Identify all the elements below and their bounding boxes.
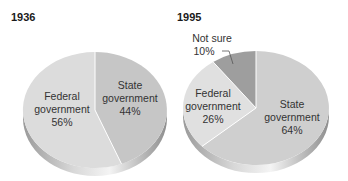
label-state-1936-l1: State — [118, 79, 143, 91]
label-state-1936-l2: government — [102, 92, 158, 104]
label-federal-1936-l1: Federal — [44, 90, 80, 102]
label-state-1936-pct: 44% — [119, 105, 140, 117]
label-state-1995-l2: government — [264, 111, 320, 123]
pie-charts: Federal government 56% State government … — [0, 0, 348, 181]
label-federal-1936-l2: government — [34, 103, 90, 115]
label-federal-1995-l1: Federal — [195, 87, 231, 99]
label-notsure-1995-l1: Not sure — [192, 32, 232, 44]
label-state-1995-l1: State — [280, 98, 305, 110]
label-federal-1995-l2: government — [185, 100, 241, 112]
label-federal-1995-pct: 26% — [202, 113, 223, 125]
label-notsure-1995-pct: 10% — [193, 45, 214, 57]
label-federal-1936-pct: 56% — [51, 116, 72, 128]
label-state-1995-pct: 64% — [281, 124, 302, 136]
